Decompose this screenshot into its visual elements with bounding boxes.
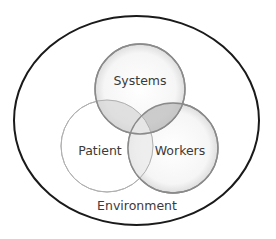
patient-label: Patient [78, 143, 122, 158]
workers-label: Workers [155, 143, 206, 158]
environment-label: Environment [97, 198, 177, 213]
systems-label: Systems [113, 73, 166, 88]
venn-diagram: Systems Patient Workers Environment [0, 0, 276, 239]
